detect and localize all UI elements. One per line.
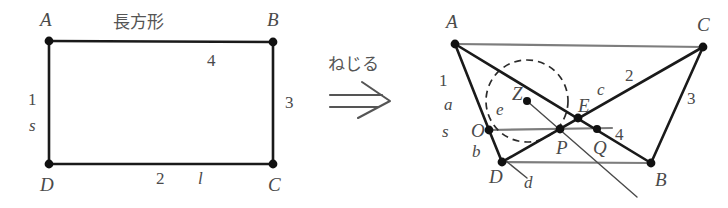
double-right-arrow-icon [330, 82, 390, 118]
edge-O-D [489, 130, 502, 162]
right-edge-label-s: s [442, 122, 449, 141]
vertex-dot-D [45, 160, 54, 169]
vertex-dot-Q [593, 125, 601, 133]
vertex-label-Z: Z [512, 83, 523, 104]
vertex-label-A: A [38, 9, 52, 30]
edge-label-l: l [198, 169, 203, 188]
geometry-figure: A B C D 長方形 4 3 1 s 2 l ねじる [0, 0, 728, 208]
right-edge-label-c: c [597, 80, 605, 99]
edge-label-s: s [29, 116, 36, 135]
right-edge-label-2: 2 [625, 66, 634, 85]
edge-A-E-B [455, 44, 651, 163]
vertex-label-E: E [577, 95, 590, 116]
right-edge-label-1: 1 [439, 71, 448, 90]
left-rectangle-group: A B C D 長方形 4 3 1 s 2 l [28, 9, 294, 195]
transform-group: ねじる [328, 54, 390, 118]
edge-D-B-gray [502, 162, 651, 163]
vertex-dot-C-right [699, 43, 708, 52]
edge-label-2: 2 [156, 169, 165, 188]
right-edge-label-b: b [472, 142, 481, 161]
vertex-label-B-right: B [655, 169, 667, 190]
edge-AB [49, 41, 273, 42]
edge-label-1: 1 [28, 90, 37, 109]
right-edge-label-d: d [524, 173, 533, 192]
vertex-dot-A-right [451, 40, 460, 49]
vertex-label-D: D [39, 174, 54, 195]
vertex-label-D-right: D [488, 166, 503, 187]
vertex-dot-A [45, 37, 54, 46]
figure-root: A B C D 長方形 4 3 1 s 2 l ねじる [0, 0, 728, 208]
edge-A-C-gray [455, 44, 703, 47]
edge-label-3: 3 [285, 93, 294, 112]
vertex-dot-P [556, 125, 565, 134]
right-edge-label-e: e [496, 100, 504, 119]
vertex-dot-C [269, 160, 278, 169]
vertex-label-A-right: A [444, 11, 458, 32]
vertex-label-B: B [267, 9, 279, 30]
vertex-dot-B-right [647, 159, 656, 168]
vertex-label-P: P [555, 137, 568, 158]
right-edge-label-a: a [444, 95, 453, 114]
vertex-label-C: C [268, 174, 281, 195]
vertex-dot-Z [523, 97, 531, 105]
rectangle-title: 長方形 [113, 12, 164, 32]
transform-label: ねじる [328, 54, 379, 74]
vertex-dot-O [485, 126, 494, 135]
vertex-label-O: O [471, 120, 485, 141]
vertex-dot-B [269, 38, 278, 47]
right-edge-label-4: 4 [615, 125, 624, 144]
right-twisted-group: A C B D O Z E P Q 1 a s b e d c 2 3 4 [439, 11, 710, 197]
vertex-label-Q: Q [593, 137, 607, 158]
vertex-label-C-right: C [697, 14, 710, 35]
edge-label-4: 4 [207, 51, 216, 70]
edge-A-O [455, 44, 489, 130]
right-edge-label-3: 3 [687, 89, 696, 108]
